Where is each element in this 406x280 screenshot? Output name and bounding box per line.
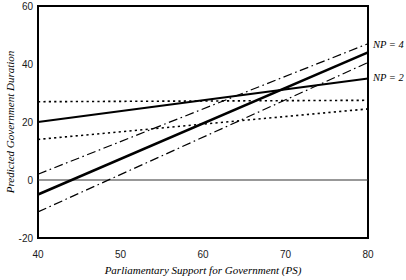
x-tick-label-50: 50 [115, 249, 127, 260]
y-tick-label-20: 20 [22, 117, 34, 128]
plot-frame [38, 6, 368, 238]
x-tick-label-80: 80 [362, 249, 374, 260]
x-tick-label-70: 70 [280, 249, 292, 260]
np2-series-label: NP = 2 [372, 72, 405, 83]
y-tick-label-40: 40 [22, 59, 34, 70]
chart-svg: 60 40 20 0 -20 40 50 60 70 80 Parliament… [0, 0, 406, 280]
y-tick-label-0: 0 [27, 175, 33, 186]
chart-container: 60 40 20 0 -20 40 50 60 70 80 Parliament… [0, 0, 406, 280]
x-axis-title: Parliamentary Support for Government (PS… [104, 264, 302, 277]
y-tick-label-minus20: -20 [19, 233, 34, 244]
np4-series-label: NP = 4 [372, 39, 405, 50]
y-axis-title: Predicted Government Duration [4, 50, 16, 194]
y-tick-label-60: 60 [22, 1, 34, 12]
x-tick-label-40: 40 [32, 249, 44, 260]
x-tick-label-60: 60 [197, 249, 209, 260]
